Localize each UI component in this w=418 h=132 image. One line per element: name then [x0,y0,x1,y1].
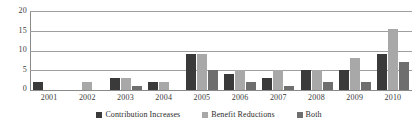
x-axis-label: 2003 [106,93,144,105]
legend-item[interactable]: Both [297,110,322,119]
bar [186,54,196,90]
bar-group [183,11,221,90]
legend-label: Benefit Reductions [211,110,274,119]
legend-swatch-icon [202,112,208,118]
bar [377,54,387,90]
x-axis-label: 2005 [183,93,221,105]
legend-item[interactable]: Contribution Increases [96,110,180,119]
y-tick-label-5: 5 [3,66,27,74]
x-axis-label: 2006 [221,93,259,105]
bar [159,82,169,90]
x-axis-label: 2002 [68,93,106,105]
bar [132,86,142,90]
bar-group [106,11,144,90]
bar [224,74,234,90]
bar-group [221,11,259,90]
bar [350,58,360,90]
bar [235,70,245,90]
bar [148,82,158,90]
x-axis-labels: 2001200220032004200520062007200820092010 [30,93,412,105]
bar-group [30,11,68,90]
bar [301,70,311,90]
bar-group [374,11,412,90]
bar [33,82,43,90]
bar [110,78,120,90]
legend-swatch-icon [297,112,303,118]
bar [208,70,218,90]
bar [273,70,283,90]
bar-group [297,11,335,90]
bar [284,86,294,90]
bar-groups [30,11,412,90]
legend-label: Contribution Increases [105,110,180,119]
x-axis-label: 2008 [297,93,335,105]
y-tick-label-15: 15 [3,27,27,35]
bar-group [336,11,374,90]
x-axis-label: 2007 [259,93,297,105]
bar [197,54,207,90]
x-axis-label: 2009 [336,93,374,105]
y-tick-label-20: 20 [3,7,27,15]
bar [388,29,398,90]
bar [312,70,322,90]
chart-legend: Contribution IncreasesBenefit Reductions… [0,110,418,119]
plot-area [30,11,412,90]
legend-label: Both [306,110,322,119]
legend-item[interactable]: Benefit Reductions [202,110,274,119]
bar-group [259,11,297,90]
bar-group [145,11,183,90]
legend-swatch-icon [96,112,102,118]
bar [323,82,333,90]
bar [246,82,256,90]
bar [399,62,409,90]
x-axis-label: 2010 [374,93,412,105]
y-tick-label-10: 10 [3,46,27,54]
bar [339,70,349,90]
bar-chart: 20 15 10 5 0 200120022003200420052006200… [0,0,418,132]
gridline-0-baseline [30,90,412,91]
x-axis-label: 2001 [30,93,68,105]
bar [361,82,371,90]
bar [262,78,272,90]
x-axis-label: 2004 [145,93,183,105]
bar [121,78,131,90]
y-tick-label-0: 0 [3,85,27,93]
bar [82,82,92,90]
bar-group [68,11,106,90]
